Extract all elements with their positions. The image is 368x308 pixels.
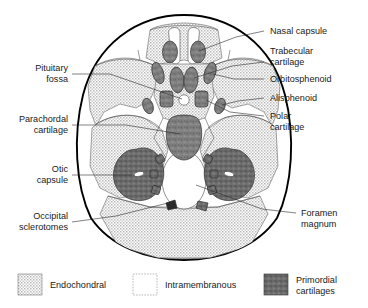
label-alisphenoid-line1: Alisphenoid (270, 93, 317, 103)
label-trabecular-cartilage-line1: Trabecular (270, 46, 313, 56)
figure-container: Pituitary fossa Parachordal cartilage Ot… (0, 0, 368, 308)
parachordal-cartilage (166, 115, 201, 160)
labels-left-group: Pituitary fossa Parachordal cartilage Ot… (19, 63, 69, 232)
nasal-capsule-cartilage-right (191, 41, 206, 63)
label-occipital-sclerotomes-line2: sclerotomes (19, 222, 68, 232)
pituitary-fossa-opening (179, 95, 189, 105)
label-otic-capsule-line1: Otic (52, 164, 69, 174)
label-trabecular-cartilage-line2: cartilage (270, 57, 304, 67)
occipital-sclerotome-5 (210, 170, 218, 178)
label-pituitary-fossa-line2: fossa (46, 74, 69, 84)
label-polar-cartilage-line1: Polar (270, 111, 291, 121)
label-foramen-magnum-line1: Foramen (301, 208, 337, 218)
label-pituitary-fossa-line1: Pituitary (35, 63, 68, 73)
label-nasal-capsule-line1: Nasal capsule (270, 26, 327, 36)
label-otic-capsule-line2: capsule (37, 175, 68, 185)
label-parachordal-cartilage-line1: Parachordal (19, 114, 68, 124)
label-orbitosphenoid-line1: Orbitosphenoid (270, 74, 332, 84)
legend-swatch-intramembranous (133, 274, 157, 295)
label-occipital-sclerotomes-line1: Occipital (33, 211, 68, 221)
legend-label-endochondral: Endochondral (50, 280, 106, 290)
legend-label-primordial-cartilages-line1: Primordial (296, 275, 337, 285)
legend-swatch-endochondral (18, 274, 42, 295)
label-parachordal-cartilage-line2: cartilage (34, 125, 68, 135)
label-foramen-magnum-line2: magnum (301, 219, 336, 229)
alisphenoid-right (195, 91, 208, 107)
occipital-sclerotome-2 (150, 170, 158, 178)
legend-label-intramembranous: Intramembranous (165, 280, 237, 290)
nasal-capsule-cartilage-left (163, 41, 178, 63)
legend-swatch-primordial-cartilages (264, 274, 288, 295)
label-polar-cartilage-line2: cartilage (270, 122, 304, 132)
endochondral-nasal-shelf (146, 23, 222, 64)
legend: Endochondral Intramembranous Primordial … (18, 274, 337, 296)
legend-label-primordial-cartilages-line2: cartilages (296, 286, 335, 296)
